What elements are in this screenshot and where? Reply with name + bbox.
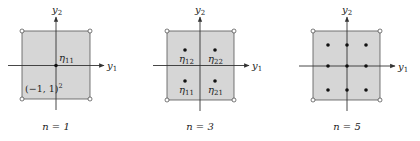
corner-open-circle [88, 97, 92, 101]
panel-n1: η11 (−1, 1)2 y1 y2 n = 1 [8, 4, 117, 132]
point-eta21 [213, 79, 217, 83]
y1-label: y1 [106, 60, 117, 73]
y1-label: y1 [251, 60, 262, 73]
corner-open-circle [232, 29, 236, 33]
panel-n3: η12 η22 η11 η21 y1 y2 n = 3 [153, 4, 262, 132]
corner-open-circle [165, 98, 169, 102]
corner-open-circle [378, 98, 382, 102]
caption: n = 5 [333, 121, 361, 132]
y1-label: y1 [397, 61, 408, 74]
y2-label: y2 [51, 4, 62, 17]
point-eta11 [183, 79, 187, 83]
y2-label: y2 [341, 4, 352, 17]
panel-n5: y1 y2 n = 5 [299, 4, 408, 132]
corner-open-circle [20, 29, 24, 33]
corner-open-circle [20, 97, 24, 101]
caption: n = 3 [186, 121, 214, 132]
corner-open-circle [311, 98, 315, 102]
corner-open-circle [232, 98, 236, 102]
caption: n = 1 [42, 121, 70, 132]
point-eta22 [213, 48, 217, 52]
point-eta12 [183, 48, 187, 52]
corner-open-circle [88, 29, 92, 33]
point-eta11 [54, 64, 58, 68]
domain-label: (−1, 1) [25, 83, 59, 94]
svg-text:(−1, 1)2: (−1, 1)2 [25, 82, 63, 94]
figure: η11 (−1, 1)2 y1 y2 n = 1 η12 η22 η11 η21… [0, 0, 420, 141]
y2-label: y2 [194, 4, 205, 17]
corner-open-circle [378, 29, 382, 33]
corner-open-circle [311, 29, 315, 33]
corner-open-circle [165, 29, 169, 33]
